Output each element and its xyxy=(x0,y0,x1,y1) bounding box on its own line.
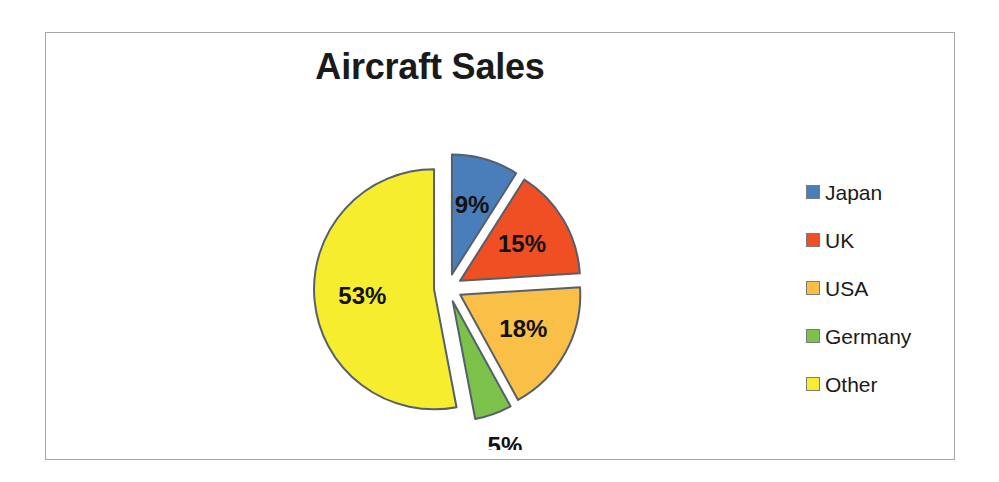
legend-item-label: Other xyxy=(825,374,878,395)
legend-color-swatch xyxy=(806,281,820,295)
legend-item-label: UK xyxy=(825,230,854,251)
legend-item-label: Germany xyxy=(825,326,911,347)
pie-slice-data-label: 15% xyxy=(498,230,546,257)
chart-container: Aircraft Sales 9%15%18%5%53% JapanUKUSAG… xyxy=(0,0,999,482)
legend-item-label: USA xyxy=(825,278,868,299)
legend-item[interactable]: Other xyxy=(806,360,956,408)
pie-slice-data-label: 9% xyxy=(455,191,490,218)
pie-slice-data-label: 18% xyxy=(499,315,547,342)
legend-color-swatch xyxy=(806,377,820,391)
chart-legend: JapanUKUSAGermanyOther xyxy=(806,168,956,408)
pie-slice-data-label: 5% xyxy=(488,432,523,450)
pie-chart-svg: 9%15%18%5%53% xyxy=(250,120,670,450)
legend-item[interactable]: Japan xyxy=(806,168,956,216)
legend-item[interactable]: UK xyxy=(806,216,956,264)
legend-color-swatch xyxy=(806,329,820,343)
legend-color-swatch xyxy=(806,185,820,199)
page-title: Aircraft Sales xyxy=(60,46,800,87)
legend-item[interactable]: Germany xyxy=(806,312,956,360)
chart-title-area: Aircraft Sales xyxy=(60,0,800,120)
pie-slice-data-label: 53% xyxy=(338,282,386,309)
legend-item[interactable]: USA xyxy=(806,264,956,312)
legend-color-swatch xyxy=(806,233,820,247)
legend-item-label: Japan xyxy=(825,182,882,203)
pie-plot-area: 9%15%18%5%53% xyxy=(250,120,670,450)
